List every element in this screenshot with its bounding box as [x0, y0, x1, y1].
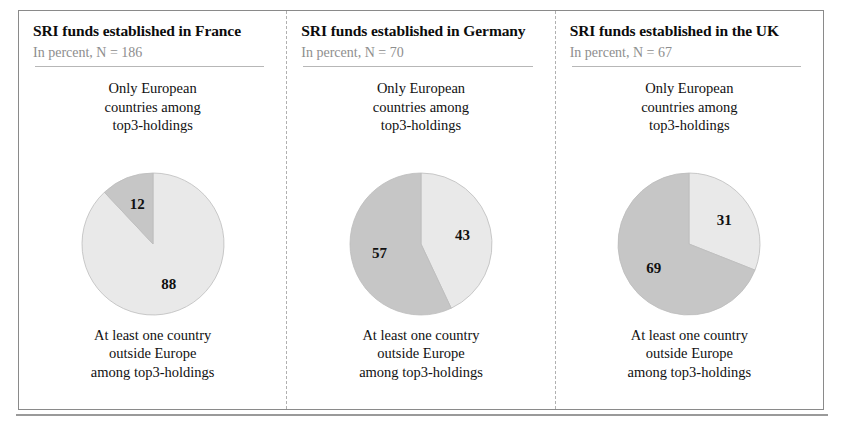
caption-bottom: At least one country outside Europe amon…	[287, 326, 554, 382]
header-divider	[35, 66, 264, 67]
pie-chart-france: 8812	[78, 169, 228, 319]
panel-uk: SRI funds established in the UK In perce…	[555, 11, 823, 409]
pie-container: 8812	[19, 169, 286, 319]
panel-header: SRI funds established in the UK In perce…	[556, 11, 823, 67]
pie-chart-germany: 4357	[346, 169, 496, 319]
header-divider	[572, 66, 801, 67]
pie-slice-value: 69	[647, 260, 662, 276]
figure-bottom-rule	[16, 414, 828, 416]
panel-france: SRI funds established in France In perce…	[19, 11, 286, 409]
panel-header: SRI funds established in France In perce…	[19, 11, 286, 67]
panel-subtitle: In percent, N = 70	[301, 43, 542, 62]
panel-subtitle: In percent, N = 186	[33, 43, 274, 62]
pie-slice-value: 43	[455, 227, 470, 243]
caption-bottom: At least one country outside Europe amon…	[19, 326, 286, 382]
panel-title: SRI funds established in France	[33, 21, 274, 41]
caption-top: Only European countries among top3-holdi…	[556, 79, 823, 135]
pie-container: 4357	[287, 169, 554, 319]
panel-header: SRI funds established in Germany In perc…	[287, 11, 554, 67]
pie-slice-value: 57	[372, 245, 388, 261]
caption-top: Only European countries among top3-holdi…	[287, 79, 554, 135]
header-divider	[303, 66, 532, 67]
pie-chart-uk: 3169	[614, 169, 764, 319]
panel-title: SRI funds established in the UK	[570, 21, 811, 41]
pie-slice-value: 88	[161, 276, 176, 292]
pie-container: 3169	[556, 169, 823, 319]
panel-subtitle: In percent, N = 67	[570, 43, 811, 62]
panel-row: SRI funds established in France In perce…	[19, 11, 823, 409]
caption-top: Only European countries among top3-holdi…	[19, 79, 286, 135]
panel-title: SRI funds established in Germany	[301, 21, 542, 41]
panel-germany: SRI funds established in Germany In perc…	[286, 11, 554, 409]
caption-bottom: At least one country outside Europe amon…	[556, 326, 823, 382]
pie-slice-value: 12	[129, 196, 144, 212]
pie-slice-value: 31	[717, 212, 732, 228]
figure-frame: SRI funds established in France In perce…	[18, 10, 824, 410]
